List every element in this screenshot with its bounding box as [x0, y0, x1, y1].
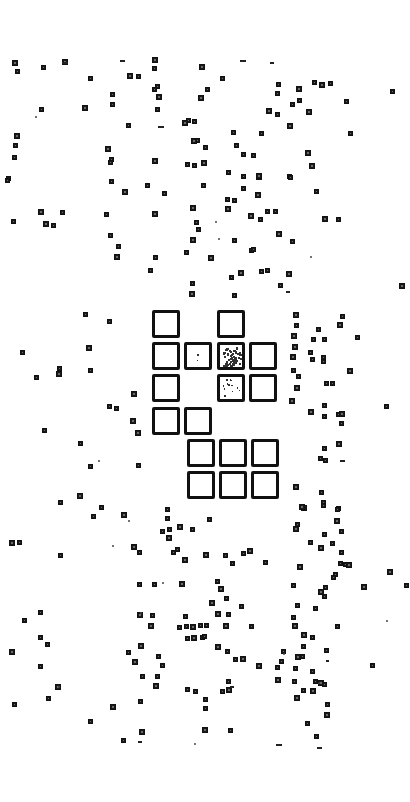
small-square: [60, 210, 65, 215]
small-square: [297, 98, 302, 103]
dash-mark: [138, 741, 142, 743]
small-square: [184, 624, 189, 629]
small-square: [226, 679, 231, 684]
small-square: [324, 648, 329, 653]
small-square: [248, 213, 254, 219]
speck: [98, 460, 100, 462]
small-square: [153, 683, 159, 689]
small-square: [167, 527, 172, 532]
small-square: [291, 583, 296, 588]
small-square: [122, 189, 128, 195]
small-square: [275, 91, 280, 96]
small-square: [321, 359, 326, 364]
speckle: [236, 348, 238, 350]
small-square: [404, 583, 409, 588]
small-square: [308, 350, 313, 355]
small-square: [192, 163, 197, 168]
small-square: [330, 381, 335, 386]
small-square: [116, 244, 121, 249]
small-square: [309, 163, 315, 169]
small-square: [104, 212, 109, 217]
small-square: [220, 689, 225, 694]
small-square: [137, 582, 142, 587]
small-square: [126, 123, 131, 128]
small-square: [225, 649, 230, 654]
speckle: [232, 391, 234, 393]
small-square: [316, 327, 321, 332]
speck: [283, 653, 285, 655]
small-square: [251, 153, 256, 158]
dash-mark: [317, 747, 322, 749]
small-square: [185, 162, 190, 167]
small-square: [310, 635, 315, 640]
small-square: [322, 594, 327, 599]
small-square: [196, 227, 201, 232]
small-square: [286, 271, 292, 277]
small-square: [336, 217, 341, 222]
small-square: [311, 337, 316, 342]
small-square: [256, 663, 262, 669]
small-square: [182, 120, 188, 126]
small-square: [325, 702, 330, 707]
small-square: [11, 219, 16, 224]
small-square: [110, 92, 115, 97]
dash-mark: [270, 62, 274, 64]
large-square-empty: [249, 342, 277, 370]
speckle: [226, 361, 228, 363]
small-square: [223, 623, 229, 629]
small-square: [232, 198, 237, 203]
small-square: [131, 391, 137, 397]
small-square: [355, 335, 360, 340]
speckle: [237, 387, 239, 389]
small-square: [231, 130, 236, 135]
large-square-empty: [152, 407, 180, 435]
small-square: [290, 102, 295, 107]
small-square: [208, 255, 214, 261]
small-square: [313, 606, 318, 611]
small-square: [301, 644, 306, 649]
large-square-empty: [152, 342, 180, 370]
small-square: [198, 623, 203, 628]
speckle: [230, 379, 232, 381]
speck: [318, 682, 320, 684]
dash-mark: [276, 744, 282, 746]
small-square: [322, 403, 327, 408]
small-square: [12, 702, 17, 707]
speckle: [224, 395, 226, 397]
small-square: [177, 524, 183, 530]
small-square: [121, 738, 126, 743]
small-square: [215, 579, 220, 584]
small-square: [384, 404, 389, 409]
small-square: [177, 625, 182, 630]
small-square: [165, 516, 170, 521]
small-square: [241, 551, 246, 556]
small-square: [148, 268, 153, 273]
large-square-empty: [219, 439, 247, 467]
small-square: [190, 205, 196, 211]
small-square: [390, 89, 395, 94]
small-square: [228, 728, 233, 733]
small-square: [13, 143, 18, 148]
small-square: [110, 102, 115, 107]
speckle: [226, 379, 228, 381]
small-square: [193, 689, 198, 694]
small-square: [265, 268, 270, 273]
small-square: [209, 600, 215, 606]
small-square: [108, 160, 113, 165]
small-square: [314, 734, 319, 739]
small-square: [276, 231, 282, 237]
small-square: [287, 123, 293, 129]
small-square: [41, 65, 46, 70]
small-square: [295, 603, 300, 608]
small-square: [322, 216, 328, 222]
small-square: [328, 81, 333, 86]
small-square: [241, 186, 246, 191]
small-square: [190, 237, 196, 243]
small-square: [339, 421, 344, 426]
small-square: [38, 209, 44, 215]
small-square: [215, 644, 221, 650]
small-square: [291, 333, 297, 339]
small-square: [137, 550, 142, 555]
small-square: [322, 682, 327, 687]
small-square: [160, 663, 165, 668]
